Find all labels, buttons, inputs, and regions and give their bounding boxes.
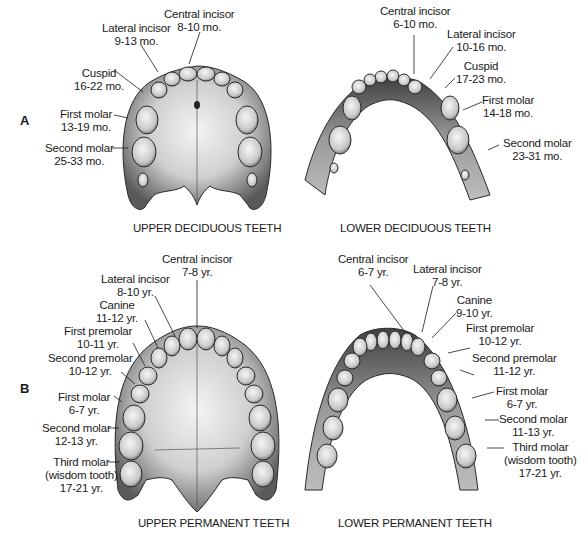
label-lower-permanent-third-molar: Third molar (wisdom tooth) 17-21 yr. (504, 441, 577, 480)
section-label-b: B (20, 381, 29, 396)
label-upper-permanent-second-molar: Second molar 12-13 yr. (42, 422, 111, 448)
label-upper-deciduous-lateral-incisor: Lateral incisor 9-13 mo. (102, 22, 171, 48)
label-lower-deciduous-central-incisor: Central incisor 6-10 mo. (380, 5, 451, 31)
label-lower-permanent-second-molar: Second molar 11-13 yr. (499, 413, 568, 439)
title-lower-permanent-teeth: LOWER PERMANENT TEETH (338, 517, 492, 529)
label-lower-deciduous-second-molar: Second molar 23-31 mo. (503, 137, 572, 163)
lower-permanent-arch (305, 328, 478, 490)
label-lower-permanent-central-incisor: Central incisor 6-7 yr. (338, 253, 409, 279)
label-upper-deciduous-first-molar: First molar 13-19 mo. (60, 108, 112, 134)
label-lower-permanent-canine: Canine 9-10 yr. (456, 294, 493, 320)
label-upper-permanent-first-molar: First molar 6-7 yr. (58, 391, 110, 417)
label-upper-permanent-first-premolar: First premolar 10-11 yr. (64, 325, 132, 351)
label-upper-deciduous-second-molar: Second molar 25-33 mo. (45, 142, 114, 168)
label-lower-deciduous-first-molar: First molar 14-18 mo. (482, 94, 534, 120)
label-upper-permanent-central-incisor: Central incisor 7-8 yr. (162, 253, 233, 279)
title-lower-deciduous-teeth: LOWER DECIDUOUS TEETH (340, 222, 491, 234)
label-upper-permanent-lateral-incisor: Lateral incisor 8-10 yr. (101, 273, 170, 299)
title-upper-permanent-teeth: UPPER PERMANENT TEETH (138, 517, 289, 529)
label-upper-deciduous-cuspid: Cuspid 16-22 mo. (74, 67, 124, 93)
label-lower-permanent-first-premolar: First premolar 10-12 yr. (466, 322, 534, 348)
label-upper-permanent-canine: Canine 11-12 yr. (96, 299, 138, 325)
title-upper-deciduous-teeth: UPPER DECIDUOUS TEETH (133, 222, 281, 234)
label-lower-permanent-first-molar: First molar 6-7 yr. (496, 385, 548, 411)
upper-deciduous-arch (123, 66, 271, 209)
upper-permanent-arch (115, 326, 279, 512)
lower-deciduous-arch (305, 70, 490, 200)
label-lower-permanent-lateral-incisor: Lateral incisor 7-8 yr. (413, 263, 482, 289)
label-lower-permanent-second-premolar: Second premolar 11-12 yr. (472, 352, 557, 378)
label-upper-permanent-second-premolar: Second premolar 10-12 yr. (48, 352, 133, 378)
label-upper-permanent-third-molar: Third molar (wisdom tooth) 17-21 yr. (45, 456, 118, 495)
label-lower-deciduous-lateral-incisor: Lateral incisor 10-16 mo. (447, 28, 516, 54)
section-label-a: A (20, 113, 29, 128)
label-upper-deciduous-central-incisor: Central incisor 8-10 mo. (164, 8, 235, 34)
label-lower-deciduous-cuspid: Cuspid 17-23 mo. (456, 60, 506, 86)
